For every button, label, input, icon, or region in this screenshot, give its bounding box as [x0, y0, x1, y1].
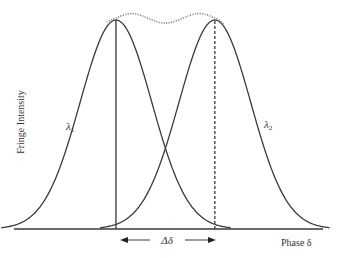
- y-axis-label: Fringe Intensity: [15, 90, 26, 154]
- shift-annotation: Δδ: [120, 234, 216, 246]
- shift-label: Δδ: [160, 234, 173, 246]
- x-axis-label: Phase δ: [281, 237, 312, 248]
- left-arrowhead-icon: [120, 237, 128, 243]
- curve2-label: λ2: [263, 118, 273, 132]
- fringe-diagram: Fringe Intensity λ1 λ2 Δδ Phase δ: [0, 0, 339, 258]
- right-arrowhead-icon: [208, 237, 216, 243]
- envelope-curve: [107, 14, 224, 25]
- curve1-label: λ1: [65, 120, 75, 134]
